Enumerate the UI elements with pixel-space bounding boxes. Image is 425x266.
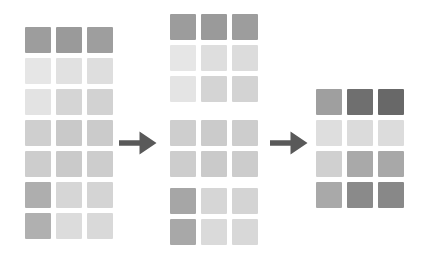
matrix-cell: [56, 27, 82, 53]
matrix-row: [316, 182, 404, 208]
matrix-row: [170, 45, 258, 71]
matrix-row: [25, 182, 113, 208]
matrix-cell: [347, 151, 373, 177]
matrix-row: [170, 188, 258, 214]
arrow-right-icon: [270, 132, 308, 155]
matrix-cell: [201, 120, 227, 146]
matrix-cell: [201, 219, 227, 245]
matrix-cell: [232, 120, 258, 146]
matrix-cell: [56, 58, 82, 84]
matrix-cell: [316, 89, 342, 115]
matrix-cell: [201, 151, 227, 177]
transform-arrow-1: [119, 126, 157, 160]
matrix-cell: [378, 89, 404, 115]
matrix-row: [316, 120, 404, 146]
diagram-canvas: [0, 0, 425, 266]
matrix-cell: [170, 219, 196, 245]
matrix-cell: [25, 58, 51, 84]
matrix-cell: [170, 14, 196, 40]
matrix-cell: [170, 45, 196, 71]
matrix-cell: [25, 120, 51, 146]
matrix-cell: [378, 151, 404, 177]
split-group-middle: [170, 120, 258, 177]
matrix-cell: [25, 89, 51, 115]
matrix-cell: [378, 182, 404, 208]
matrix-row: [25, 213, 113, 239]
matrix-cell: [201, 14, 227, 40]
matrix-cell: [87, 27, 113, 53]
matrix-cell: [25, 182, 51, 208]
matrix-cell: [56, 182, 82, 208]
matrix-cell: [25, 151, 51, 177]
matrix-cell: [170, 151, 196, 177]
matrix-cell: [378, 120, 404, 146]
matrix-cell: [25, 213, 51, 239]
matrix-cell: [25, 27, 51, 53]
matrix-row: [316, 151, 404, 177]
matrix-cell: [316, 120, 342, 146]
matrix-cell: [170, 76, 196, 102]
matrix-cell: [316, 182, 342, 208]
matrix-cell: [87, 89, 113, 115]
matrix-row: [170, 120, 258, 146]
matrix-cell: [87, 120, 113, 146]
matrix-cell: [347, 120, 373, 146]
matrix-row: [25, 58, 113, 84]
matrix-cell: [316, 151, 342, 177]
matrix-cell: [232, 45, 258, 71]
matrix-row: [170, 14, 258, 40]
matrix-row: [316, 89, 404, 115]
split-group-bottom: [170, 188, 258, 245]
matrix-cell: [170, 120, 196, 146]
matrix-cell: [87, 213, 113, 239]
arrow-right-icon: [119, 132, 157, 155]
matrix-row: [170, 219, 258, 245]
matrix-cell: [56, 89, 82, 115]
source-matrix: [25, 27, 113, 239]
matrix-cell: [347, 182, 373, 208]
matrix-cell: [87, 151, 113, 177]
matrix-cell: [232, 151, 258, 177]
matrix-row: [170, 76, 258, 102]
matrix-cell: [87, 182, 113, 208]
matrix-row: [25, 27, 113, 53]
matrix-cell: [201, 188, 227, 214]
matrix-cell: [232, 76, 258, 102]
split-group-top: [170, 14, 258, 102]
matrix-cell: [170, 188, 196, 214]
matrix-row: [170, 151, 258, 177]
matrix-cell: [232, 219, 258, 245]
matrix-cell: [347, 89, 373, 115]
matrix-cell: [56, 120, 82, 146]
matrix-cell: [201, 45, 227, 71]
matrix-cell: [201, 76, 227, 102]
matrix-row: [25, 120, 113, 146]
matrix-row: [25, 151, 113, 177]
matrix-cell: [232, 188, 258, 214]
result-matrix: [316, 89, 404, 208]
transform-arrow-2: [270, 126, 308, 160]
matrix-cell: [232, 14, 258, 40]
matrix-row: [25, 89, 113, 115]
matrix-cell: [87, 58, 113, 84]
matrix-cell: [56, 151, 82, 177]
matrix-cell: [56, 213, 82, 239]
